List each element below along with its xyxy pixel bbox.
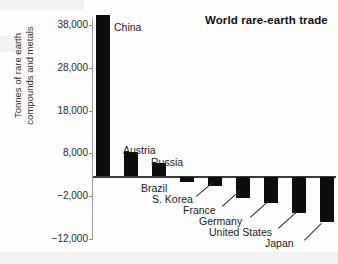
bar-france [236,177,250,198]
bar-label-russia: Russia [151,157,183,168]
y-tick-label-28000: 28,000 [36,63,88,73]
chart-title: World rare-earth trade [205,14,328,26]
leader-line-japan [304,223,322,241]
leader-line-united-states [278,212,297,229]
y-axis-tick-labels: 38,000 28,000 18,000 8,000 −2,000 −12,00… [36,0,88,264]
y-axis-spine [92,18,93,240]
bar-label-united-states: United States [209,227,272,238]
leader-line-skorea [196,182,213,197]
bar-label-austria: Austria [123,145,156,156]
y-tick-label-neg2000: −2,000 [36,191,88,201]
y-tick-label-8000: 8,000 [36,148,88,158]
chart-figure: World rare-earth trade Tonnes of rare ea… [0,0,338,264]
bar-united-states [292,177,306,213]
y-axis-label: Tonnes of rare earth compounds and metal… [12,1,35,151]
bar-label-china: China [114,22,141,33]
bar-germany [264,177,278,203]
leader-line-france [222,190,241,207]
bar-china [96,15,110,176]
y-tick-label-neg12000: −12,000 [36,234,88,244]
y-tick-label-18000: 18,000 [36,106,88,116]
bar-brazil [180,177,194,182]
bar-label-japan: Japan [265,238,294,249]
y-tick-label-38000: 38,000 [36,20,88,30]
leader-line-germany [250,201,269,218]
bar-japan [320,177,334,222]
